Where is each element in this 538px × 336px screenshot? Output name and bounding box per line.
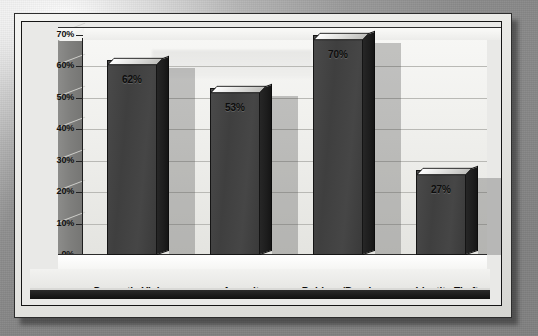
plot-top-edge-line: [58, 27, 501, 28]
bar-identity-theft[interactable]: 27%: [416, 170, 466, 255]
y-axis-tick-label-wrap: 40%: [34, 129, 74, 130]
bar-shadow: [169, 68, 195, 255]
y-axis-tick: [76, 35, 83, 36]
bar-value-label: 53%: [210, 102, 260, 113]
y-axis-tick-label: 40%: [40, 123, 74, 133]
bar-shadow: [272, 96, 298, 255]
y-axis-tick: [76, 129, 83, 130]
bar-front-face: [313, 35, 363, 255]
y-axis-tick: [76, 161, 83, 162]
y-axis-tick-label-wrap: 20%: [34, 192, 74, 193]
bar-side-face: [363, 31, 375, 255]
y-axis-tick-label: 50%: [40, 92, 74, 102]
chart-figure: 0%10%20%30%40%50%60%70% 62%53%70%27% Dom…: [14, 13, 512, 318]
y-axis-tick-label-wrap: 10%: [34, 224, 74, 225]
bar-side-face: [157, 56, 169, 255]
y-axis-tick: [76, 98, 83, 99]
bar-top-face: [313, 33, 370, 40]
bar-value-label: 70%: [313, 49, 363, 60]
y-axis-tick-label-wrap: 50%: [34, 98, 74, 99]
bar-value-label: 62%: [107, 74, 157, 85]
bar-assault[interactable]: 53%: [210, 88, 260, 255]
bar-top-face: [416, 168, 473, 175]
bar-value-label: 27%: [416, 184, 466, 195]
bar-side-face: [466, 166, 478, 255]
bar-top-face: [107, 58, 164, 65]
bar-top-face: [210, 86, 267, 93]
bar-domestic-violence[interactable]: 62%: [107, 60, 157, 255]
plot-area: 0%10%20%30%40%50%60%70% 62%53%70%27% Dom…: [22, 22, 501, 305]
bar-front-face: [107, 60, 157, 255]
y-axis-tick-label: 70%: [40, 29, 74, 39]
bar-robbery-burglary[interactable]: 70%: [313, 35, 363, 255]
y-axis-tick-label: 60%: [40, 60, 74, 70]
y-axis-tick: [76, 224, 83, 225]
y-axis-tick: [76, 192, 83, 193]
bar-shadow: [478, 178, 501, 255]
y-axis-tick-label-wrap: 30%: [34, 161, 74, 162]
y-axis-tick-label: 30%: [40, 155, 74, 165]
bar-side-face: [260, 84, 272, 255]
bar-front-face: [416, 170, 466, 255]
y-axis-tick: [76, 66, 83, 67]
chart-plot-frame: 0%10%20%30%40%50%60%70% 62%53%70%27% Dom…: [21, 21, 502, 306]
bar-shadow: [375, 43, 401, 255]
plot-top-cap: [58, 28, 501, 40]
base-band: [30, 290, 490, 299]
y-axis-tick-label: 20%: [40, 186, 74, 196]
y-axis-tick-label-wrap: 70%: [34, 35, 74, 36]
y-axis-tick-label: 10%: [40, 218, 74, 228]
y-axis-tick-label-wrap: 60%: [34, 66, 74, 67]
